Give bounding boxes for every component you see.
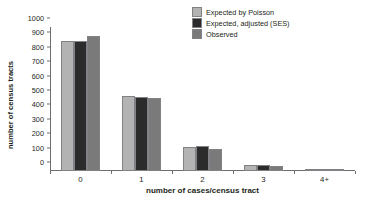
bar-group (233, 27, 294, 171)
legend-item: Expected by Poisson (192, 7, 290, 17)
bar (61, 41, 74, 171)
bar (122, 96, 135, 171)
x-axis-tick-mark (111, 171, 112, 174)
x-axis-tick-mark (50, 171, 51, 174)
y-axis-tick-label: 700 (32, 57, 44, 66)
y-axis-tick-label: 600 (32, 71, 44, 80)
y-axis-tick-label: 500 (32, 86, 44, 95)
bar-group (172, 27, 233, 171)
x-axis-tick-mark (294, 171, 295, 174)
y-axis-tick-label: 800 (32, 42, 44, 51)
y-axis-tick: 900 (32, 28, 50, 37)
y-axis-tick: 800 (32, 42, 50, 51)
y-axis-tick-label: 100 (32, 143, 44, 152)
y-axis-tick: 200 (32, 129, 50, 138)
x-axis-tick-label: 3 (234, 175, 294, 184)
bar-group (50, 27, 111, 171)
x-axis-tick-label: 2 (173, 175, 233, 184)
bar (209, 149, 222, 171)
bar (148, 98, 161, 171)
x-axis-title: number of cases/census tract (50, 186, 355, 195)
y-axis-tick-label: 400 (32, 100, 44, 109)
bar (87, 36, 100, 171)
legend-swatch-icon (192, 7, 202, 17)
bar (305, 169, 318, 171)
y-axis-tick-label: 900 (32, 28, 44, 37)
x-axis-tick-mark (233, 171, 234, 174)
bar (244, 165, 257, 171)
bar (74, 41, 87, 171)
bar (135, 97, 148, 171)
y-axis-tick-label: 0 (40, 158, 44, 167)
y-axis-tick: 100 (32, 143, 50, 152)
plot-area: 0100200300400500600700800900100001234+ (50, 27, 355, 171)
legend-item-label: Expected by Poisson (206, 8, 274, 17)
bar (183, 147, 196, 171)
y-axis-tick: 400 (32, 100, 50, 109)
bar (257, 165, 270, 171)
y-axis-tick: 300 (32, 114, 50, 123)
y-axis-tick-label: 1000 (28, 14, 44, 23)
x-axis-tick-label: 1 (112, 175, 172, 184)
bar (196, 146, 209, 171)
y-axis-tick: 1000 (28, 14, 50, 23)
y-axis-tick: 500 (32, 86, 50, 95)
bar (270, 166, 283, 171)
y-axis-tick-mark (47, 18, 50, 19)
x-axis-tick-label: 0 (51, 175, 111, 184)
y-axis-tick: 700 (32, 57, 50, 66)
y-axis-title: number of census tracts (6, 55, 15, 155)
y-axis-tick-label: 200 (32, 129, 44, 138)
x-axis-tick-mark (172, 171, 173, 174)
bar-group (111, 27, 172, 171)
y-axis-tick: 600 (32, 71, 50, 80)
bar-chart: Expected by PoissonExpected, adjusted (S… (0, 0, 370, 205)
y-axis-tick: 0 (40, 158, 50, 167)
bar-group (294, 27, 355, 171)
bar (331, 169, 344, 171)
x-axis-tick-label: 4+ (295, 175, 355, 184)
x-axis-tick-mark (355, 171, 356, 174)
y-axis-tick-label: 300 (32, 114, 44, 123)
bar (318, 169, 331, 171)
